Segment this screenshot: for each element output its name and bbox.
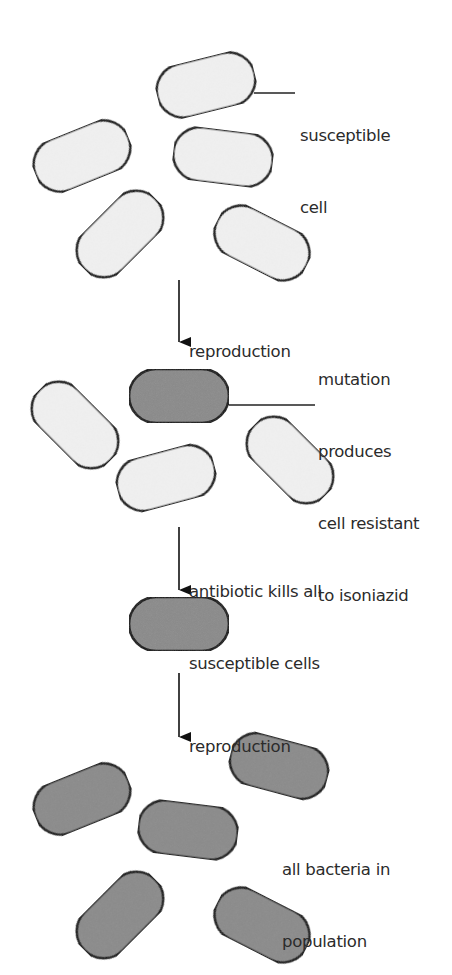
susceptible-cell: [26, 112, 139, 200]
susceptible-cell: [21, 371, 130, 480]
label-line: reproduction: [189, 340, 291, 364]
label-line: cell resistant: [318, 512, 419, 536]
resistant-cell: [66, 861, 175, 970]
all-resistant-label: all bacteria in population resistant to …: [282, 810, 390, 975]
resistant-cell: [26, 755, 139, 843]
label-line: produces: [318, 440, 419, 464]
label-line: susceptible cells: [189, 652, 322, 676]
stage-1: [26, 47, 319, 290]
label-line: antibiotic kills all: [189, 580, 322, 604]
label-line: mutation: [318, 368, 419, 392]
label-line: reproduction: [189, 735, 291, 759]
mutation-label: mutation produces cell resistant to ison…: [318, 320, 419, 632]
stage-2: [21, 369, 345, 517]
susceptible-cell-label: susceptible cell: [300, 76, 390, 244]
susceptible-cell: [151, 47, 261, 124]
label-line: to isoniazid: [318, 584, 419, 608]
susceptible-cell: [111, 439, 222, 517]
reproduction-label-1: reproduction: [189, 292, 291, 388]
susceptible-cell: [66, 180, 175, 289]
label-line: population: [282, 930, 390, 954]
label-line: susceptible: [300, 124, 390, 148]
susceptible-cell: [170, 124, 276, 190]
label-line: all bacteria in: [282, 858, 390, 882]
resistant-cell: [135, 797, 241, 863]
antibiotic-label: antibiotic kills all susceptible cells: [189, 532, 322, 700]
reproduction-label-2: reproduction: [189, 687, 291, 783]
label-line: cell: [300, 196, 390, 220]
